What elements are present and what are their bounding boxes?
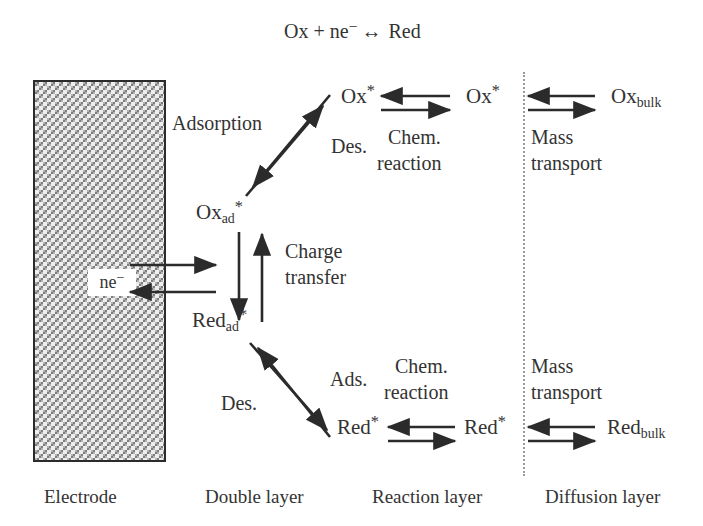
species-red-adsorbed: Redad* — [192, 308, 247, 332]
species-ox-star-double-layer: Ox* — [341, 84, 375, 108]
label-mass-transport-bottom-line2: transport — [531, 381, 602, 404]
label-mass-transport-top-line2: transport — [531, 152, 602, 175]
arrow-adsorption-bottom — [258, 348, 330, 437]
caption-double-layer: Double layer — [205, 486, 304, 508]
label-charge-transfer-line2: transfer — [285, 266, 346, 289]
electron-label-box: ne− — [88, 269, 136, 296]
species-red-star-diffusion-edge: Red* — [464, 415, 506, 439]
species-red-bulk: Redbulk — [607, 415, 665, 439]
label-chem-reaction-bottom-line2: reaction — [384, 381, 448, 404]
diffusion-layer-boundary-line — [523, 72, 525, 476]
caption-electrode: Electrode — [44, 486, 117, 508]
equation-plus: + — [308, 20, 329, 42]
caption-diffusion-layer: Diffusion layer — [545, 486, 660, 508]
species-ox-adsorbed: Oxad* — [196, 200, 243, 224]
arrow-adsorption-top — [253, 95, 330, 187]
label-mass-transport-bottom-line1: Mass — [531, 355, 573, 378]
species-ox-star-reaction-layer: Ox* — [466, 84, 500, 108]
label-chem-reaction-bottom-line1: Chem. — [395, 355, 448, 378]
overall-reaction-equation: Ox+ne−↔Red — [284, 20, 421, 43]
electron-label: ne− — [100, 272, 125, 293]
species-red-star-reaction-layer: Red* — [337, 415, 379, 439]
label-adsorption-bottom: Ads. — [330, 368, 367, 391]
label-desorption-top: Des. — [331, 135, 367, 158]
species-ox-bulk: Oxbulk — [611, 84, 661, 108]
electrochemical-reaction-pathway-diagram: Ox+ne−↔Red ne− — [0, 0, 703, 526]
equation-equilibrium-arrow: ↔ — [357, 20, 388, 42]
equation-electrons: ne — [330, 20, 349, 42]
caption-reaction-layer: Reaction layer — [372, 486, 482, 508]
label-chem-reaction-top-line1: Chem. — [388, 126, 441, 149]
label-chem-reaction-top-line2: reaction — [377, 152, 441, 175]
equation-ox: Ox — [284, 20, 308, 42]
label-desorption-bottom: Des. — [221, 392, 257, 415]
arrow-desorption-bottom — [250, 343, 327, 430]
equation-red: Red — [388, 20, 420, 42]
label-mass-transport-top-line1: Mass — [531, 126, 573, 149]
label-charge-transfer-line1: Charge — [285, 240, 342, 263]
label-adsorption: Adsorption — [172, 112, 262, 135]
